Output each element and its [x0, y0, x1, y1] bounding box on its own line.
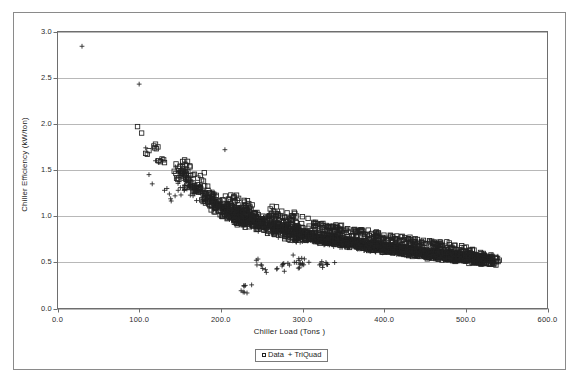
x-tick-label: 300.0 — [278, 315, 328, 324]
y-tick-label: 3.0 — [20, 27, 52, 36]
chart-legend: Data + TriQuad — [255, 349, 328, 362]
gridlines — [58, 33, 548, 310]
x-axis-title: Chiller Load (Tons ) — [0, 327, 579, 336]
legend-label-data: Data — [268, 351, 284, 359]
legend-entry-triquad: + TriQuad — [288, 351, 322, 359]
y-axis-title: Chiller Efficiency (kW/ton) — [20, 95, 29, 235]
open-square-icon — [262, 353, 266, 357]
legend-label-triquad: TriQuad — [295, 351, 322, 359]
y-tick-marks — [54, 33, 58, 310]
x-tick-label: 100.0 — [114, 315, 164, 324]
x-tick-label: 400.0 — [359, 315, 409, 324]
y-tick-label: 2.5 — [20, 73, 52, 82]
y-tick-label: 0.0 — [20, 304, 52, 313]
scatter-plot-svg — [0, 0, 579, 381]
plus-icon: + — [288, 353, 293, 357]
legend-entry-data: Data — [262, 351, 284, 359]
x-tick-label: 0.0 — [33, 315, 83, 324]
y-tick-label: 0.5 — [20, 257, 52, 266]
x-tick-label: 200.0 — [196, 315, 246, 324]
x-tick-label: 600.0 — [523, 315, 573, 324]
plot-area: 0.00.51.01.52.02.53.0 0.0100.0200.0300.0… — [0, 0, 579, 381]
chart-figure: 0.00.51.01.52.02.53.0 0.0100.0200.0300.0… — [0, 0, 579, 381]
x-tick-label: 500.0 — [441, 315, 491, 324]
